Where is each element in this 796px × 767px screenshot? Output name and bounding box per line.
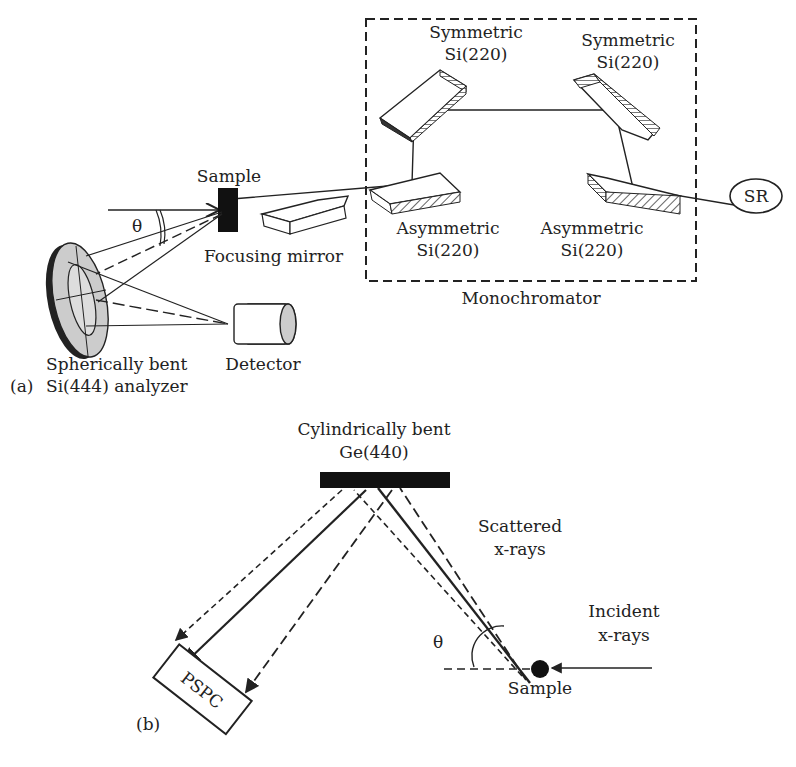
sym2-label-1: Symmetric — [581, 30, 674, 50]
detector-a — [234, 304, 296, 344]
panel-a-tag: (a) — [10, 376, 33, 396]
panel-b: Cylindrically bent Ge(440) PSPC θ Scatte… — [136, 419, 660, 734]
asym2-label-2: Si(220) — [561, 240, 624, 260]
analyzer-label-1: Spherically bent — [46, 354, 188, 374]
sample-a — [218, 188, 238, 232]
panel-a: SR Symmetric Si(220) Symmetric — [10, 19, 782, 396]
asymmetric-crystal-2 — [588, 174, 680, 214]
ge-crystal — [320, 472, 450, 488]
monochromator-label: Monochromator — [461, 288, 601, 308]
mirror-label: Focusing mirror — [204, 246, 344, 266]
sample-a-label: Sample — [197, 166, 261, 186]
incident-label-2: x-rays — [598, 625, 650, 645]
pspc-detector: PSPC — [153, 644, 251, 734]
crystal-label-2: Ge(440) — [339, 442, 408, 462]
asym1-label-1: Asymmetric — [396, 218, 500, 238]
sample-b — [531, 660, 549, 678]
sym1-label-2: Si(220) — [445, 44, 508, 64]
sym2-label-2: Si(220) — [597, 52, 660, 72]
asym2-label-1: Asymmetric — [540, 218, 644, 238]
sr-label: SR — [744, 186, 770, 206]
crystal-label-1: Cylindrically bent — [297, 419, 450, 439]
asym1-label-2: Si(220) — [417, 240, 480, 260]
scattered-label-2: x-rays — [494, 539, 546, 559]
detector-a-label: Detector — [225, 354, 301, 374]
scattered-label-1: Scattered — [478, 516, 562, 536]
symmetric-crystal-2 — [574, 74, 660, 140]
panel-b-tag: (b) — [136, 714, 160, 734]
sym1-label-1: Symmetric — [429, 22, 522, 42]
symmetric-crystal-1 — [380, 70, 466, 142]
focusing-mirror — [262, 196, 348, 234]
theta-b: θ — [433, 632, 443, 652]
spectrometer-diagram: SR Symmetric Si(220) Symmetric — [0, 0, 796, 767]
incident-label-1: Incident — [588, 601, 660, 621]
sample-b-label: Sample — [508, 678, 572, 698]
theta-a: θ — [132, 216, 142, 236]
asymmetric-crystal-1 — [370, 173, 460, 214]
analyzer-label-2: Si(444) analyzer — [46, 376, 188, 396]
